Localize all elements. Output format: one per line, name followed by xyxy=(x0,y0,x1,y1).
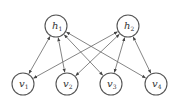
node-v2: v2 xyxy=(56,73,78,95)
edge-h2-v3 xyxy=(114,38,124,73)
edge-h1-v2 xyxy=(58,38,65,72)
edge-h2-v1 xyxy=(34,32,118,78)
node-h2: h2 xyxy=(117,15,139,37)
node-v1: v1 xyxy=(12,73,34,95)
nodes: h1h2v1v2v3v4 xyxy=(12,15,167,95)
node-v3: v3 xyxy=(100,73,122,95)
edge-h1-v1 xyxy=(29,36,50,73)
edges xyxy=(29,32,151,78)
bipartite-graph: h1h2v1v2v3v4 xyxy=(0,0,180,112)
edge-h1-v4 xyxy=(66,32,145,78)
node-v4: v4 xyxy=(145,73,167,95)
edge-h2-v4 xyxy=(133,37,151,73)
node-h1: h1 xyxy=(45,15,67,37)
